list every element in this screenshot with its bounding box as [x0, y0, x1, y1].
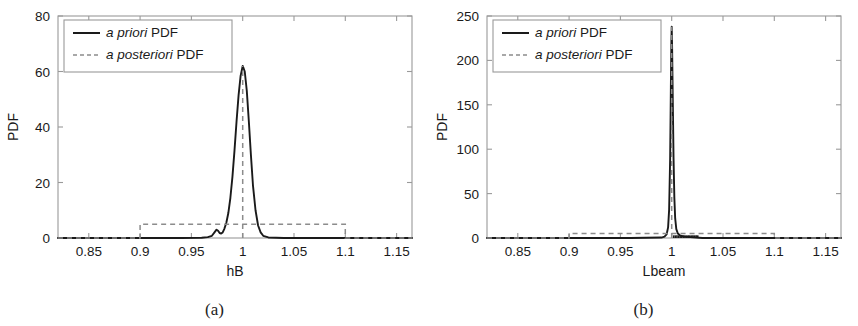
x-tick-label: 1	[239, 244, 247, 259]
x-tick-label: 1.05	[281, 244, 307, 259]
x-tick-label: 1.1	[336, 244, 355, 259]
series-a-priori	[58, 66, 412, 238]
x-axis-title: hB	[226, 263, 243, 279]
figure-two-pdf-panels: 0.850.90.9511.051.11.15020406080hBPDFa p…	[0, 0, 858, 326]
panel-a: 0.850.90.9511.051.11.15020406080hBPDFa p…	[0, 0, 429, 326]
y-tick-label: 60	[35, 65, 50, 80]
y-tick-label: 150	[456, 98, 479, 113]
y-tick-label: 0	[471, 231, 479, 246]
x-tick-label: 0.85	[76, 244, 102, 259]
y-tick-label: 50	[464, 187, 479, 202]
x-tick-label: 0.95	[607, 244, 633, 259]
y-tick-label: 80	[35, 9, 50, 24]
y-axis-title: PDF	[434, 113, 450, 141]
panel-b-caption: (b)	[429, 300, 858, 320]
y-tick-label: 0	[42, 231, 50, 246]
y-tick-label: 20	[35, 176, 50, 191]
series-a-posteriori	[58, 224, 412, 238]
y-axis-title: PDF	[5, 113, 21, 141]
legend-label: a priori PDF	[106, 25, 178, 40]
x-tick-label: 0.95	[178, 244, 204, 259]
x-tick-label: 0.85	[505, 244, 531, 259]
y-tick-label: 40	[35, 120, 50, 135]
y-tick-label: 250	[456, 9, 479, 24]
x-tick-label: 0.9	[131, 244, 150, 259]
legend-label: a priori PDF	[535, 25, 607, 40]
x-tick-label: 1.15	[812, 244, 838, 259]
x-tick-label: 0.9	[560, 244, 579, 259]
x-axis-title: Lbeam	[643, 263, 686, 279]
x-tick-label: 1.05	[710, 244, 736, 259]
y-tick-label: 200	[456, 53, 479, 68]
panel-b: 0.850.90.9511.051.11.15050100150200250Lb…	[429, 0, 858, 326]
x-tick-label: 1	[668, 244, 676, 259]
y-tick-label: 100	[456, 142, 479, 157]
legend-label: a posteriori PDF	[535, 47, 633, 62]
legend-label: a posteriori PDF	[106, 47, 204, 62]
panel-a-caption: (a)	[0, 300, 429, 320]
x-tick-label: 1.15	[383, 244, 409, 259]
plot-b: 0.850.90.9511.051.11.15050100150200250Lb…	[429, 0, 858, 290]
plot-a: 0.850.90.9511.051.11.15020406080hBPDFa p…	[0, 0, 429, 290]
x-tick-label: 1.1	[765, 244, 784, 259]
